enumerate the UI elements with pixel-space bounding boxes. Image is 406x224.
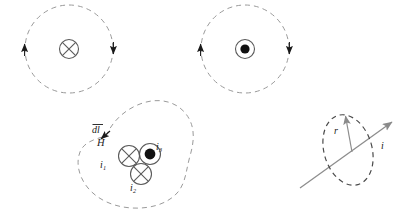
radius-vector [346, 116, 353, 152]
physics-diagram-canvas [0, 0, 406, 224]
i3-label: i3 [156, 142, 162, 153]
i2-label: i2 [130, 183, 136, 194]
current-symbol-into-page [60, 40, 79, 59]
panel-out-of-page [201, 5, 290, 93]
current-carrying-wire [300, 122, 392, 188]
i1-label: i1 [100, 160, 106, 171]
dl-label: dl [92, 125, 100, 135]
current-label: i [381, 141, 384, 151]
amperian-loop-ellipse [315, 109, 381, 191]
current-symbol-i2 [131, 164, 152, 185]
current-symbol-out-of-page [236, 40, 255, 59]
current-symbol-i1 [119, 146, 140, 167]
panel-wire-loop [300, 109, 392, 191]
radius-label: r [334, 126, 338, 136]
H-label: H [97, 138, 105, 149]
panel-into-page [25, 5, 114, 93]
